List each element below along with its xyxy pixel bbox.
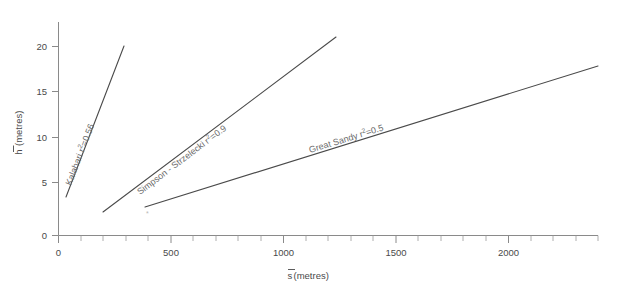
series-label-simpson-suffix: =0.9 xyxy=(208,123,228,142)
y-tick-label-0: 0 xyxy=(42,230,47,241)
svg-text:Kalahari r2=0.56: Kalahari r2=0.56 xyxy=(62,122,96,187)
y-tick-label-5: 5 xyxy=(42,177,47,188)
x-axis-tick-labels: 0 500 1000 1500 2000 xyxy=(56,247,519,258)
y-axis-ticks xyxy=(52,47,59,236)
series-label-kalahari-suffix: =0.56 xyxy=(79,123,96,148)
series-label-kalahari: Kalahari r2=0.56 xyxy=(62,122,96,187)
chart-figure: 20 15 10 5 0 xyxy=(0,0,621,290)
y-axis-title: h (metres) xyxy=(13,111,24,155)
svg-text:h: h xyxy=(13,149,24,154)
chart-canvas: 20 15 10 5 0 xyxy=(0,0,621,290)
x-tick-label-0: 0 xyxy=(56,247,61,258)
svg-text:Great Sandy r2=0.5: Great Sandy r2=0.5 xyxy=(307,121,384,155)
y-tick-label-15: 15 xyxy=(36,86,47,97)
annotation-faint-mark: * xyxy=(146,210,149,217)
y-tick-label-10: 10 xyxy=(36,132,47,143)
x-axis-minor-ticks xyxy=(81,236,598,242)
x-axis-title: s (metres) xyxy=(288,270,329,282)
y-axis-title-base: h xyxy=(13,149,24,154)
series-label-simpson-prefix: Simpson - Strzelecki r xyxy=(135,136,211,197)
series-label-greatsandy-suffix: =0.5 xyxy=(365,123,385,138)
x-tick-label-1500: 1500 xyxy=(385,247,406,258)
series-label-kalahari-prefix: Kalahari r xyxy=(64,147,87,187)
y-tick-label-20: 20 xyxy=(36,41,47,52)
x-tick-label-1000: 1000 xyxy=(273,247,294,258)
series-label-great-sandy: Great Sandy r2=0.5 xyxy=(307,121,384,155)
y-axis-title-rest: (metres) xyxy=(13,111,24,146)
x-axis-title-rest: (metres) xyxy=(294,270,329,281)
x-axis-title-base: s xyxy=(288,270,293,281)
x-tick-label-2000: 2000 xyxy=(498,247,519,258)
y-axis-tick-labels: 20 15 10 5 0 xyxy=(36,41,47,241)
x-tick-label-500: 500 xyxy=(163,247,179,258)
